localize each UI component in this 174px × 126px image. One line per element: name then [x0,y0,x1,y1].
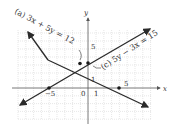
tick-label-y-5: 5 [91,43,95,51]
point-a-y-intercept [78,62,82,66]
line-a [28,32,48,60]
tick-label-x-neg5: −5 [45,90,55,98]
line-c [20,65,88,105]
point-c-y-intercept [86,61,90,65]
equation-label-a: (a) 3x + 5y = 12 [13,7,76,46]
point-a-x-intercept [117,86,121,90]
coordinate-graph: x y −5 0 1 5 1 5 (a) 3x + 5y = 12 (c) 5y… [0,0,174,126]
y-axis-label: y [83,9,89,17]
leader-a-icon [79,50,81,60]
tick-label-x-5: 5 [124,80,128,88]
x-axis-label: x [163,85,167,93]
line-a-lower [48,60,148,107]
tick-label-x-1: 1 [94,90,98,98]
tick-label-x-0: 0 [81,90,85,98]
point-c-x-intercept [47,86,51,90]
